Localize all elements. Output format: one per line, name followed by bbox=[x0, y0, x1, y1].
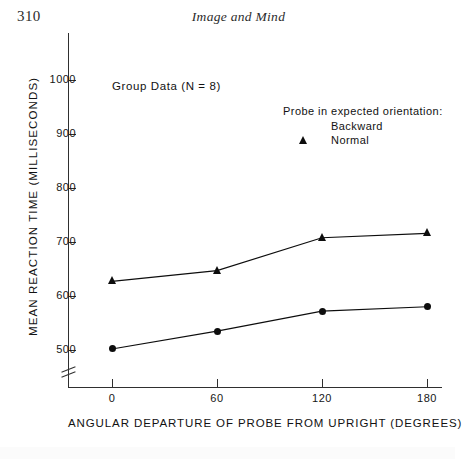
data-point-backward-60 bbox=[213, 266, 221, 274]
series-line-normal bbox=[112, 307, 427, 349]
data-point-normal-120 bbox=[319, 308, 326, 315]
scan-edge-texture bbox=[0, 447, 455, 459]
data-point-backward-120 bbox=[318, 233, 326, 241]
data-point-normal-60 bbox=[214, 328, 221, 335]
series-line-backward bbox=[112, 233, 427, 281]
data-point-backward-0 bbox=[108, 276, 116, 284]
data-point-normal-0 bbox=[109, 345, 116, 352]
data-point-normal-180 bbox=[424, 303, 431, 310]
data-point-backward-180 bbox=[423, 228, 431, 236]
